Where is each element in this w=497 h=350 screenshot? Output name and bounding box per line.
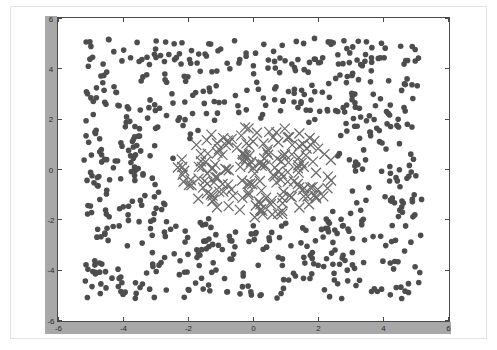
data-point-circle: [302, 260, 308, 266]
data-point-circle: [88, 170, 94, 176]
data-point-circle: [349, 73, 355, 79]
data-point-circle: [308, 253, 314, 259]
data-point-circle: [233, 93, 239, 99]
data-point-circle: [248, 289, 254, 295]
x-tick-label: -2: [185, 324, 192, 333]
data-point-circle: [359, 222, 365, 228]
data-point-circle: [363, 157, 369, 163]
data-point-circle: [416, 280, 422, 286]
data-point-circle: [150, 261, 156, 267]
data-point-circle: [301, 255, 307, 261]
data-point-circle: [408, 239, 414, 245]
data-point-circle: [133, 280, 139, 286]
data-point-cross: [206, 130, 216, 140]
data-point-circle: [182, 99, 188, 105]
data-point-circle: [256, 86, 262, 92]
data-point-circle: [350, 44, 356, 50]
data-point-circle: [277, 55, 283, 61]
data-point-circle: [380, 258, 386, 264]
data-point-circle: [193, 280, 199, 286]
data-point-circle: [407, 163, 413, 169]
data-point-circle: [240, 270, 246, 276]
data-point-circle: [354, 123, 360, 129]
data-point-circle: [99, 159, 105, 165]
data-point-circle: [194, 255, 200, 261]
data-point-circle: [222, 99, 228, 105]
data-point-circle: [95, 226, 101, 232]
data-point-circle: [411, 192, 417, 198]
data-point-circle: [164, 219, 170, 225]
data-point-circle: [258, 115, 264, 121]
data-point-circle: [243, 53, 249, 59]
data-point-circle: [401, 105, 407, 111]
data-point-circle: [387, 164, 393, 170]
data-point-circle: [128, 55, 134, 61]
data-point-circle: [200, 89, 206, 95]
data-point-circle: [363, 52, 369, 58]
data-point-circle: [298, 240, 304, 246]
data-point-circle: [130, 198, 136, 204]
data-point-circle: [211, 99, 217, 105]
data-point-circle: [101, 73, 107, 79]
data-point-circle: [371, 117, 377, 123]
data-point-circle: [306, 119, 312, 125]
data-point-circle: [206, 41, 212, 47]
data-point-circle: [379, 168, 385, 174]
data-point-cross: [203, 149, 213, 159]
data-point-circle: [414, 83, 420, 89]
x-tick-mark: [123, 18, 124, 22]
y-tick-mark: [445, 68, 449, 69]
data-point-circle: [412, 212, 418, 218]
data-point-circle: [111, 165, 117, 171]
data-point-circle: [288, 243, 294, 249]
data-point-circle: [138, 198, 144, 204]
data-point-circle: [126, 203, 132, 209]
data-point-circle: [301, 276, 307, 282]
data-point-circle: [123, 119, 129, 125]
data-point-circle: [361, 147, 367, 153]
data-point-cross: [223, 180, 233, 190]
data-point-circle: [195, 128, 201, 134]
data-point-circle: [139, 57, 145, 63]
data-point-circle: [350, 188, 356, 194]
y-tick-mark: [445, 169, 449, 170]
data-point-circle: [309, 82, 315, 88]
data-point-circle: [113, 90, 119, 96]
data-point-circle: [99, 147, 105, 153]
data-point-circle: [364, 118, 370, 124]
data-point-circle: [209, 270, 215, 276]
data-point-circle: [370, 92, 376, 98]
data-point-circle: [404, 76, 410, 82]
data-point-circle: [233, 229, 239, 235]
data-point-circle: [158, 53, 164, 59]
y-tick-mark: [445, 119, 449, 120]
data-point-circle: [395, 259, 401, 265]
x-tick-mark: [383, 317, 384, 321]
data-point-circle: [383, 146, 389, 152]
data-point-circle: [128, 160, 134, 166]
data-point-circle: [400, 200, 406, 206]
data-point-circle: [282, 58, 288, 64]
data-point-circle: [186, 287, 192, 293]
data-point-circle: [261, 42, 267, 48]
data-point-circle: [368, 133, 374, 139]
data-point-circle: [251, 237, 257, 243]
data-point-circle: [144, 72, 150, 78]
data-point-circle: [364, 39, 370, 45]
data-point-cross: [268, 133, 278, 143]
data-point-circle: [389, 198, 395, 204]
data-point-circle: [150, 175, 156, 181]
data-point-circle: [196, 51, 202, 57]
data-point-cross: [278, 198, 288, 208]
data-point-cross: [294, 128, 304, 138]
data-point-cross: [308, 157, 318, 167]
data-point-circle: [134, 40, 140, 46]
data-point-circle: [353, 168, 359, 174]
data-point-circle: [386, 78, 392, 84]
data-point-circle: [162, 229, 168, 235]
data-point-circle: [206, 282, 212, 288]
data-point-circle: [397, 184, 403, 190]
data-point-circle: [405, 121, 411, 127]
data-point-circle: [373, 103, 379, 109]
data-point-circle: [184, 269, 190, 275]
